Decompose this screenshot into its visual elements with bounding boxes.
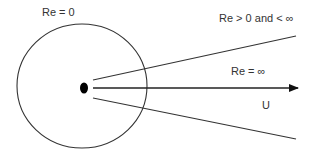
upper-boundary-line: [93, 36, 296, 80]
label-velocity-u: U: [262, 99, 270, 111]
label-re-infinite: Re = ∞: [231, 65, 265, 77]
source-dot: [80, 83, 88, 94]
reynolds-number-diagram: Re = 0 Re > 0 and < ∞ Re = ∞ U: [0, 0, 311, 153]
label-re-intermediate: Re > 0 and < ∞: [219, 12, 294, 24]
label-re-zero: Re = 0: [42, 6, 75, 18]
